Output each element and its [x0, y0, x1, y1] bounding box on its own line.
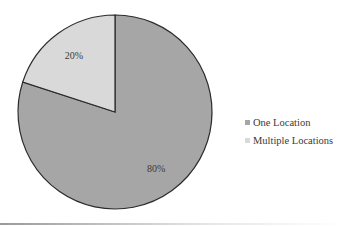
legend-item-multiple-locations: Multiple Locations: [245, 131, 333, 149]
legend-item-one-location: One Location: [245, 113, 333, 131]
legend-label: One Location: [253, 117, 310, 128]
legend-swatch: [245, 138, 250, 143]
bottom-divider: [0, 223, 346, 225]
data-label: 80%: [147, 163, 165, 174]
legend-swatch: [245, 120, 250, 125]
legend-label: Multiple Locations: [253, 135, 333, 146]
legend: One Location Multiple Locations: [245, 113, 333, 149]
data-label: 20%: [65, 50, 83, 61]
